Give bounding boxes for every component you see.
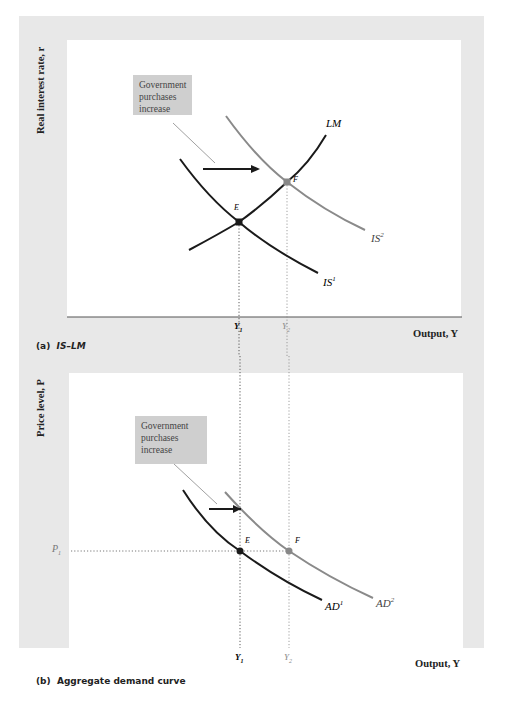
x-tick-y1: Y1 [234, 321, 243, 333]
x-axis-label: Output, Y [413, 328, 458, 339]
point-label-e: E [234, 203, 239, 212]
panel-is-lm: Government purchases increase Real inter… [19, 16, 484, 356]
point-label-f: F [295, 536, 300, 545]
callout-government-purchases: Government purchases increase [135, 416, 207, 464]
is-lm-chart [19, 16, 484, 356]
x-tick-y2: Y2 [282, 321, 290, 333]
curve-label-is2: IS2 [371, 231, 384, 244]
aggregate-demand-chart [19, 356, 484, 648]
y-axis-label: Real interest rate, r [35, 47, 46, 134]
point-label-f: F [293, 175, 298, 184]
caption-a: (a) IS–LM [36, 341, 86, 351]
x-axis-label: Output, Y [415, 658, 460, 669]
curve-label-ad1: AD1 [325, 599, 343, 612]
y-axis-label: Price level, P [35, 379, 46, 437]
x-tick-y1: Y1 [235, 652, 244, 664]
panel-aggregate-demand: Government purchases increase Price leve… [19, 356, 484, 648]
curve-label-is1: IS1 [323, 275, 336, 288]
curve-label-lm: LM [326, 117, 341, 129]
x-tick-y2: Y2 [284, 652, 292, 664]
y-tick-p1: P1 [52, 543, 61, 556]
callout-government-purchases: Government purchases increase [133, 75, 192, 115]
caption-b: (b) Aggregate demand curve [36, 676, 186, 686]
curve-label-ad2: AD2 [376, 596, 394, 609]
point-label-e: E [245, 536, 250, 545]
